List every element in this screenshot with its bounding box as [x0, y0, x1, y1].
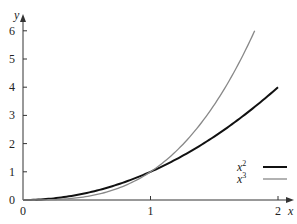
y-tick-label: 0: [9, 193, 15, 207]
y-axis-label: y: [13, 8, 20, 22]
x-tick-label: 0: [20, 204, 26, 218]
y-tick-label: 2: [9, 137, 15, 151]
x-tick-label: 2: [275, 204, 281, 218]
x-axis-arrow-icon: [286, 197, 294, 203]
x-axis-label: x: [287, 204, 294, 218]
y-tick-label: 6: [9, 24, 15, 38]
y-tick-label: 4: [9, 80, 15, 94]
legend-label: x3: [236, 171, 246, 186]
legend: x2x3: [236, 159, 287, 186]
y-axis-arrow-icon: [20, 14, 26, 22]
curve-x3: [23, 31, 255, 200]
chart: 0120123456xy x2x3: [0, 0, 297, 224]
x-tick-label: 1: [148, 204, 154, 218]
y-tick-label: 3: [9, 108, 15, 122]
y-tick-label: 5: [9, 52, 15, 66]
y-tick-label: 1: [9, 165, 15, 179]
